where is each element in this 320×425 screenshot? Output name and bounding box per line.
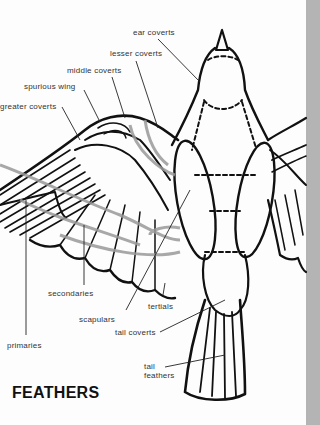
label-ear-coverts: ear coverts [133, 28, 175, 37]
label-tail-feathers-line2: feathers [144, 371, 175, 380]
label-tail-coverts: tail coverts [115, 328, 156, 337]
label-lesser-coverts: lesser coverts [110, 49, 162, 58]
label-middle-coverts: middle coverts [67, 66, 121, 75]
label-scapulars: scapulars [79, 315, 115, 324]
label-spurious-wing: spurious wing [24, 82, 76, 91]
diagram-title: FEATHERS [12, 384, 99, 402]
bird-feathers-diagram [0, 0, 320, 425]
label-primaries: primaries [7, 341, 42, 350]
label-secondaries: secondaries [48, 289, 93, 298]
label-tertials: tertials [148, 302, 173, 311]
label-tail-feathers-line1: tail [144, 362, 155, 371]
label-greater-coverts: greater coverts [0, 102, 56, 111]
